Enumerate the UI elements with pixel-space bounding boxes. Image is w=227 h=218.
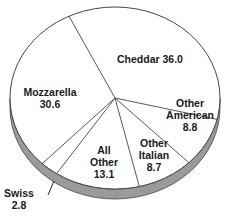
pie-chart: Cheddar 36.0OtherAmerican8.8OtherItalian… — [0, 0, 227, 218]
swiss-leader-line — [48, 181, 54, 195]
slice-label-swiss: Swiss2.8 — [4, 187, 34, 211]
slice-label-cheddar: Cheddar 36.0 — [117, 53, 183, 65]
